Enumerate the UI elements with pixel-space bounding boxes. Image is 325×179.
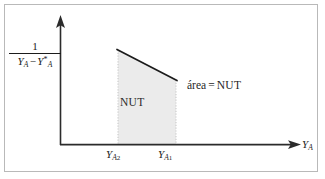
nut-region-label: NUT	[120, 96, 145, 108]
annotation-area-word: área	[187, 79, 206, 91]
x-axis-label-sub: A	[308, 143, 313, 152]
denominator-operator: −	[30, 55, 36, 67]
figure-root: 1 YA − Y*A NUT área=NUT YA2 YA1 YA	[0, 0, 325, 179]
tick-right-sub-number: 1	[169, 154, 173, 162]
y-axis-label-denominator: YA − Y*A	[9, 54, 61, 69]
tick-left-sub-number: 2	[117, 154, 121, 162]
annotation-nut-word: NUT	[217, 79, 242, 91]
y-axis-label-numerator: 1	[9, 40, 61, 53]
x-tick-label-ya1: YA1	[158, 148, 172, 162]
x-axis-label: YA	[302, 138, 313, 152]
denominator-second-sub: A	[48, 60, 53, 69]
annotation-equals-sign: =	[206, 79, 217, 91]
denominator-first-sub: A	[24, 60, 29, 69]
x-tick-label-ya2: YA2	[106, 148, 120, 162]
area-equals-nut-annotation: área=NUT	[187, 79, 242, 91]
y-axis-label: 1 YA − Y*A	[9, 40, 61, 70]
